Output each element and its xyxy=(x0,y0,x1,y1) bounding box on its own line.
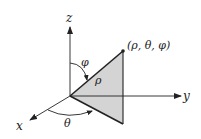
rho-label: ρ xyxy=(94,74,102,87)
theta-label: θ xyxy=(64,117,71,130)
phi-label: φ xyxy=(81,56,89,69)
point-label: (ρ, θ, φ) xyxy=(127,39,170,52)
x-axis-label: x xyxy=(16,119,23,133)
y-axis-label: y xyxy=(182,89,190,103)
point-marker xyxy=(121,49,125,53)
theta-angle-arc xyxy=(48,110,92,115)
spherical-coordinates-diagram: z y x (ρ, θ, φ) ρ φ θ xyxy=(0,0,201,139)
z-axis-label: z xyxy=(65,11,73,25)
diagram-svg: z y x (ρ, θ, φ) ρ φ θ xyxy=(0,0,201,139)
projection-triangle xyxy=(70,51,123,124)
